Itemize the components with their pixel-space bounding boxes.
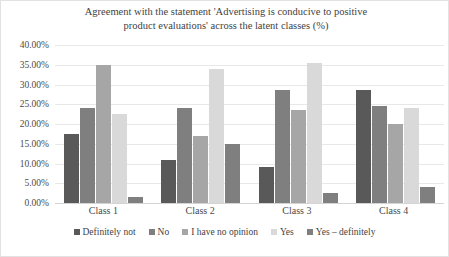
y-axis: 40.00%35.00%30.00%25.00%20.00%15.00%10.0…	[1, 45, 53, 205]
y-axis-tick-label: 15.00%	[20, 139, 49, 149]
x-axis-tick-label: Class 3	[249, 205, 346, 216]
chart-container: Agreement with the statement 'Advertisin…	[0, 0, 449, 257]
bar[interactable]	[225, 144, 240, 203]
x-axis-tick-label: Class 2	[152, 205, 249, 216]
bar[interactable]	[291, 110, 306, 203]
bar-group	[347, 45, 444, 203]
y-axis-tick-label: 10.00%	[20, 159, 49, 169]
legend-swatch-icon	[271, 229, 277, 235]
y-axis-tick-label: 5.00%	[24, 178, 49, 188]
bar-groups	[55, 45, 444, 203]
bar-group	[55, 45, 152, 203]
bar[interactable]	[259, 167, 274, 203]
bar[interactable]	[209, 69, 224, 203]
legend-swatch-icon	[149, 229, 155, 235]
x-axis-tick-label: Class 1	[55, 205, 152, 216]
legend-swatch-icon	[307, 229, 313, 235]
bar[interactable]	[112, 114, 127, 203]
chart-legend: Definitely notNoI have no opinionYesYes …	[1, 227, 448, 237]
bar[interactable]	[356, 90, 371, 203]
legend-label: Definitely not	[83, 227, 136, 237]
y-axis-tick-label: 25.00%	[20, 99, 49, 109]
legend-item[interactable]: Yes – definitely	[307, 227, 376, 237]
bar[interactable]	[275, 90, 290, 203]
bar[interactable]	[64, 134, 79, 203]
y-axis-tick-label: 35.00%	[20, 60, 49, 70]
legend-swatch-icon	[74, 229, 80, 235]
y-axis-tick-label: 0.00%	[24, 198, 49, 208]
legend-item[interactable]: Definitely not	[74, 227, 136, 237]
plot-area: 40.00%35.00%30.00%25.00%20.00%15.00%10.0…	[1, 45, 449, 205]
y-axis-tick-label: 20.00%	[20, 119, 49, 129]
legend-item[interactable]: No	[149, 227, 170, 237]
legend-label: Yes	[280, 227, 294, 237]
legend-item[interactable]: Yes	[271, 227, 294, 237]
y-axis-tick-label: 40.00%	[20, 40, 49, 50]
bar[interactable]	[420, 187, 435, 203]
legend-label: Yes – definitely	[316, 227, 376, 237]
legend-label: I have no opinion	[191, 227, 258, 237]
bar[interactable]	[193, 136, 208, 203]
chart-title: Agreement with the statement 'Advertisin…	[51, 5, 401, 32]
bar[interactable]	[161, 160, 176, 203]
bar[interactable]	[128, 197, 143, 203]
x-axis: Class 1Class 2Class 3Class 4	[55, 205, 442, 216]
bar-group	[250, 45, 347, 203]
axis-baseline	[55, 203, 444, 204]
legend-label: No	[158, 227, 170, 237]
bar[interactable]	[323, 193, 338, 203]
legend-swatch-icon	[182, 229, 188, 235]
bar[interactable]	[80, 108, 95, 203]
bar[interactable]	[404, 108, 419, 203]
bar-group	[152, 45, 249, 203]
bar[interactable]	[388, 124, 403, 203]
legend-item[interactable]: I have no opinion	[182, 227, 258, 237]
bar[interactable]	[96, 65, 111, 203]
x-axis-tick-label: Class 4	[345, 205, 442, 216]
bar[interactable]	[177, 108, 192, 203]
bar[interactable]	[307, 63, 322, 203]
bar[interactable]	[372, 106, 387, 203]
y-axis-tick-label: 30.00%	[20, 80, 49, 90]
